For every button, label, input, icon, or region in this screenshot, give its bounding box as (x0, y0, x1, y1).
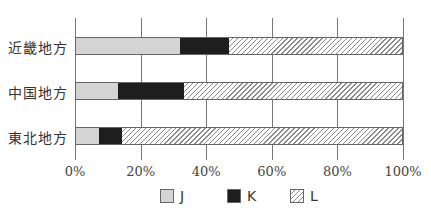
bar-segment-l (229, 38, 402, 54)
x-tick-label: 80% (323, 164, 352, 179)
legend-item-j: J (160, 188, 184, 204)
category-label: 東北地方 (8, 127, 68, 147)
x-tick-label: 0% (65, 164, 86, 179)
legend-swatch-j-icon (160, 189, 174, 203)
bar-segment-k (118, 83, 183, 99)
bar-segment-j (76, 83, 118, 99)
x-tick-label: 60% (257, 164, 286, 179)
x-tick-label: 20% (126, 164, 155, 179)
stacked-bar (75, 82, 403, 100)
bar-segment-l (122, 128, 402, 144)
legend-label-j: J (180, 188, 184, 204)
bar-segment-j (76, 128, 99, 144)
category-label: 中国地方 (8, 82, 68, 102)
x-tick-label: 40% (192, 164, 221, 179)
category-label: 近畿地方 (8, 37, 68, 57)
gridline (403, 18, 404, 160)
legend-item-l: L (290, 188, 318, 204)
bar-segment-k (99, 128, 122, 144)
legend-swatch-l-icon (290, 189, 304, 203)
stacked-bar (75, 127, 403, 145)
stacked-bar (75, 37, 403, 55)
x-tick-label: 100% (384, 164, 421, 179)
legend-label-l: L (310, 188, 318, 204)
legend-item-k: K (227, 188, 256, 204)
bar-segment-j (76, 38, 180, 54)
legend: J K L (0, 188, 431, 208)
legend-swatch-k-icon (227, 189, 241, 203)
plot-area (75, 18, 403, 160)
bar-segment-k (180, 38, 229, 54)
bar-segment-l (184, 83, 402, 99)
legend-label-k: K (247, 188, 256, 204)
